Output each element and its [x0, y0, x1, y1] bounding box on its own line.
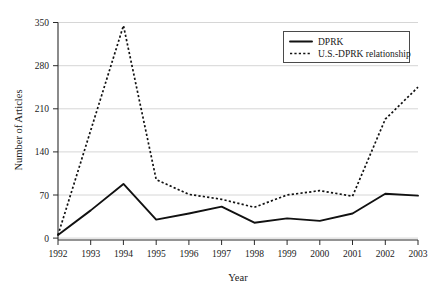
- x-tick-label-1997: 1997: [212, 249, 231, 259]
- y-tick-label-350: 350: [35, 18, 50, 28]
- x-tick-label-1999: 1999: [278, 249, 297, 259]
- x-tick-label-1998: 1998: [245, 249, 264, 259]
- legend-label-relationship: U.S.-DPRK relationship: [318, 49, 411, 59]
- x-tick-marks: [58, 240, 418, 245]
- x-tick-label-1993: 1993: [81, 249, 100, 259]
- legend-label-dprk: DPRK: [318, 37, 343, 47]
- y-tick-label-210: 210: [35, 104, 50, 114]
- series-line-dprk: [58, 184, 418, 235]
- y-tick-label-280: 280: [35, 61, 50, 71]
- y-axis-title: Number of Articles: [13, 89, 24, 170]
- line-chart: 350 280 210 140 70 0 1992 1993 1994: [0, 0, 433, 295]
- x-tick-label-2001: 2001: [343, 249, 362, 259]
- y-tick-label-140: 140: [35, 147, 50, 157]
- x-tick-label-2003: 2003: [409, 249, 428, 259]
- x-tick-label-1996: 1996: [179, 249, 198, 259]
- x-tick-label-2000: 2000: [310, 249, 329, 259]
- x-tick-label-1992: 1992: [49, 249, 68, 259]
- chart-figure: 350 280 210 140 70 0 1992 1993 1994: [0, 0, 433, 295]
- y-tick-labels: 350 280 210 140 70 0: [35, 18, 50, 244]
- y-tick-marks: [53, 23, 58, 239]
- x-axis-title: Year: [228, 272, 248, 283]
- chart-legend: DPRK U.S.-DPRK relationship: [284, 32, 411, 63]
- y-tick-label-70: 70: [40, 191, 50, 201]
- x-tick-label-2002: 2002: [376, 249, 395, 259]
- x-tick-labels: 1992 1993 1994 1995 1996 1997 1998 1999 …: [49, 249, 428, 259]
- x-tick-label-1994: 1994: [114, 249, 133, 259]
- y-tick-label-0: 0: [44, 234, 49, 244]
- x-tick-label-1995: 1995: [147, 249, 166, 259]
